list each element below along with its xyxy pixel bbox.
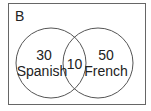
french-only-count: 50 — [98, 47, 114, 63]
spanish-label: Spanish — [17, 63, 68, 79]
venn-diagram: B 30 Spanish 10 50 French — [0, 0, 151, 111]
universal-set-label: B — [15, 8, 24, 24]
intersection-count: 10 — [67, 56, 83, 72]
spanish-only-count: 30 — [36, 47, 52, 63]
universal-set-box — [9, 4, 146, 105]
french-label: French — [84, 63, 128, 79]
